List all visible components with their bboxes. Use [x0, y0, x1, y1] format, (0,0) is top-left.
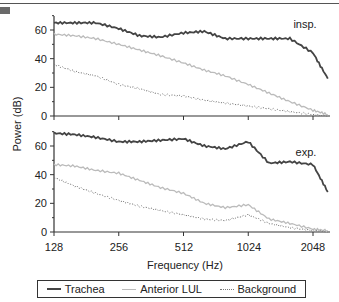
y-axis-title: Power (dB) — [11, 96, 23, 151]
background-line-swatch — [220, 289, 234, 290]
series-line-trachea — [54, 22, 328, 79]
panel-inspiration: 0204060 — [35, 16, 330, 122]
legend-item-anterior-lul: Anterior LUL — [122, 283, 202, 295]
panel-label-insp: insp. — [293, 18, 316, 30]
y-tick-label: 0 — [41, 226, 47, 238]
y-tick-label: 40 — [35, 53, 47, 65]
y-tick-label: 40 — [35, 169, 47, 181]
series-line-background — [54, 178, 328, 232]
legend-label-trachea: Trachea — [65, 283, 105, 295]
y-tick-label: 0 — [41, 110, 47, 122]
series-line-anterior-lul — [54, 164, 328, 232]
trachea-line-swatch — [47, 288, 61, 290]
panel-expiration: 0204060 — [35, 132, 330, 238]
legend-label-anterior-lul: Anterior LUL — [140, 283, 202, 295]
panel-label-exp: exp. — [296, 146, 317, 158]
y-tick-label: 20 — [35, 197, 47, 209]
series-line-background — [54, 64, 328, 116]
x-tick-1024: 1024 — [237, 241, 261, 253]
series-line-trachea — [54, 132, 328, 192]
legend-item-trachea: Trachea — [47, 283, 105, 295]
legend-label-background: Background — [238, 283, 297, 295]
x-tick-512: 512 — [175, 241, 193, 253]
y-tick-label: 20 — [35, 81, 47, 93]
x-tick-2048: 2048 — [301, 241, 325, 253]
series-line-anterior-lul — [54, 33, 328, 115]
y-tick-label: 60 — [35, 140, 47, 152]
legend-item-background: Background — [220, 283, 297, 295]
anterior-lul-line-swatch — [122, 289, 136, 290]
x-axis-title: Frequency (Hz) — [147, 259, 223, 271]
y-tick-label: 60 — [35, 24, 47, 36]
chart: Power (dB) 0204060 insp. 0204060 exp. 12… — [0, 0, 339, 302]
x-tick-128: 128 — [45, 241, 63, 253]
x-tick-256: 256 — [110, 241, 128, 253]
legend: Trachea Anterior LUL Background — [37, 280, 306, 298]
x-tick-labels: 128 256 512 1024 2048 — [45, 241, 325, 253]
